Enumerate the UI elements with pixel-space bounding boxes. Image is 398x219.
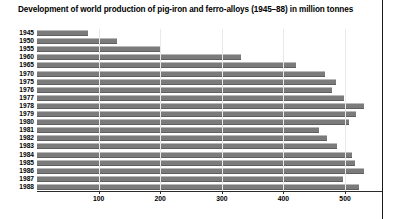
y-axis-label: 1986 <box>19 167 34 175</box>
y-axis-label: 1965 <box>19 61 34 69</box>
x-axis-line <box>37 191 382 192</box>
y-axis-label: 1988 <box>19 183 34 191</box>
x-gridline <box>99 29 100 191</box>
x-gridline <box>222 29 223 191</box>
y-axis-label: 1983 <box>19 142 34 150</box>
y-axis-label: 1955 <box>19 45 34 53</box>
y-axis-label: 1981 <box>19 126 34 134</box>
bar-row <box>37 30 382 36</box>
x-gridline <box>160 29 161 191</box>
bar-row <box>37 111 382 117</box>
x-tick-label: 100 <box>93 195 104 202</box>
y-axis-label: 1945 <box>19 29 34 37</box>
y-axis-label: 1970 <box>19 70 34 78</box>
bar-row <box>37 127 382 133</box>
y-axis-label: 1977 <box>19 94 34 102</box>
bar <box>37 127 319 133</box>
x-tick-mark <box>99 191 100 194</box>
bar <box>37 103 364 109</box>
bar <box>37 160 355 166</box>
y-axis-label: 1980 <box>19 118 34 126</box>
bar-row <box>37 62 382 68</box>
bar-row <box>37 184 382 190</box>
bar-row <box>37 71 382 77</box>
y-axis-label: 1975 <box>19 78 34 86</box>
y-axis-label: 1985 <box>19 159 34 167</box>
bar <box>37 152 352 158</box>
bar <box>37 176 343 182</box>
x-tick-mark <box>222 191 223 194</box>
y-axis-label: 1979 <box>19 110 34 118</box>
x-tick-label: 200 <box>155 195 166 202</box>
bar <box>37 30 88 36</box>
bar-row <box>37 119 382 125</box>
x-tick-label: 500 <box>339 195 350 202</box>
bar-row <box>37 87 382 93</box>
bar-row <box>37 143 382 149</box>
bar <box>37 62 296 68</box>
bar-row <box>37 103 382 109</box>
bar <box>37 79 336 85</box>
bar <box>37 143 337 149</box>
bar <box>37 184 359 190</box>
bar-row <box>37 79 382 85</box>
chart-title: Development of world production of pig-i… <box>18 5 374 14</box>
bar-row <box>37 160 382 166</box>
x-tick-label: 300 <box>216 195 227 202</box>
bar-row <box>37 168 382 174</box>
y-axis-label: 1982 <box>19 134 34 142</box>
y-axis-label: 1978 <box>19 102 34 110</box>
bar-row <box>37 46 382 52</box>
bar <box>37 168 364 174</box>
bar <box>37 119 349 125</box>
plot-area <box>37 29 382 191</box>
x-tick-mark <box>160 191 161 194</box>
x-tick-mark <box>283 191 284 194</box>
y-axis-label: 1960 <box>19 53 34 61</box>
x-gridline <box>345 29 346 191</box>
y-axis-label: 1987 <box>19 175 34 183</box>
y-axis-category-labels: 1945195019551960196519701975197619771978… <box>0 29 35 191</box>
bar <box>37 111 356 117</box>
bar <box>37 71 325 77</box>
bar-row <box>37 135 382 141</box>
figure-right-rule <box>382 0 383 219</box>
x-gridline <box>283 29 284 191</box>
y-axis-label: 1984 <box>19 151 34 159</box>
x-tick-label: 400 <box>278 195 289 202</box>
bar-row <box>37 152 382 158</box>
x-tick-mark <box>345 191 346 194</box>
bar-row <box>37 95 382 101</box>
y-axis-label: 1950 <box>19 37 34 45</box>
bar-row <box>37 38 382 44</box>
y-axis-label: 1976 <box>19 86 34 94</box>
bar-row <box>37 54 382 60</box>
bar <box>37 87 332 93</box>
chart-page: Development of world production of pig-i… <box>0 0 398 219</box>
bar <box>37 54 241 60</box>
bar <box>37 38 117 44</box>
bar <box>37 95 344 101</box>
bar-row <box>37 176 382 182</box>
